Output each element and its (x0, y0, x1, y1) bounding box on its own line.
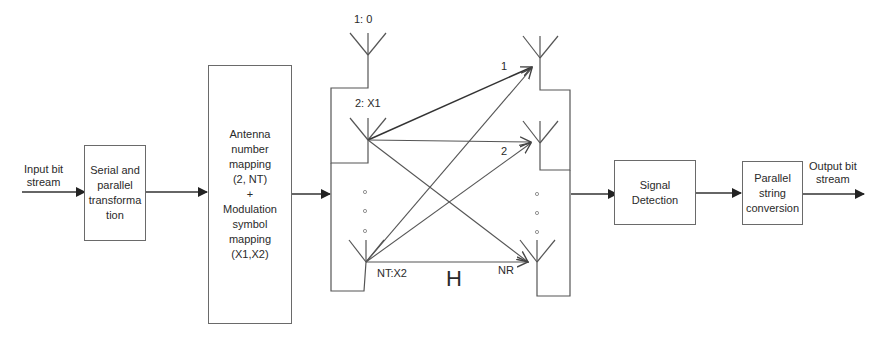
channel-matrix-label: H (446, 267, 462, 291)
block-text: Parallel (746, 171, 799, 186)
parallel-string-block: Parallel string conversion (742, 161, 803, 225)
path-2-to-2 (368, 140, 531, 142)
flow-arrows (22, 192, 864, 194)
tx-antenna-1-icon (350, 33, 386, 55)
serial-parallel-block: Serial and parallel transforma tion (84, 145, 146, 241)
rx-path-1-label: 1 (501, 60, 507, 73)
block-text: Antenna (223, 127, 277, 142)
path-2-to-1 (368, 67, 532, 140)
block-text: Signal (632, 178, 678, 193)
signal-detection-block: Signal Detection (614, 160, 696, 225)
block-text: Detection (632, 193, 678, 208)
input-label-line-2: stream (24, 176, 63, 189)
rx-antenna-2-icon (523, 121, 558, 143)
block-text: parallel (89, 178, 142, 193)
rx-antenna-nr-icon (520, 240, 555, 262)
tx-antenna-nt-label: NT:X2 (377, 267, 407, 280)
block-text: tion (89, 208, 142, 223)
channel-paths (366, 67, 532, 262)
tx-antenna-2-icon (350, 118, 386, 140)
block-text: mapping (223, 157, 277, 172)
block-text: Serial and (89, 163, 142, 178)
block-text: mapping (223, 232, 277, 247)
tx-antenna-nt-icon (349, 240, 384, 262)
output-label-line-2: stream (809, 173, 857, 186)
rx-antenna-nr-label: NR (498, 264, 514, 277)
path-nt-to-2 (366, 143, 531, 262)
input-label-line-1: Input bit (24, 163, 63, 176)
block-text: string (746, 186, 799, 201)
block-text: conversion (746, 201, 799, 216)
mapping-block: Antenna number mapping (2, NT) + Modulat… (208, 65, 292, 324)
tx-antenna-2-label: 2: X1 (355, 97, 381, 110)
ellipsis-dots (363, 190, 538, 233)
block-text: (2, NT) (223, 172, 277, 187)
path-nt-to-1 (366, 68, 532, 262)
block-text: number (223, 142, 277, 157)
output-label: Output bit stream (809, 160, 857, 186)
block-text: symbol (223, 217, 277, 232)
block-text: Modulation (223, 202, 277, 217)
tx-antenna-array (331, 33, 386, 291)
rx-path-2-label: 2 (501, 145, 507, 158)
input-label: Input bit stream (24, 163, 63, 189)
rx-antenna-1-icon (523, 36, 558, 58)
block-text: (X1,X2) (223, 247, 277, 262)
block-text: transforma (89, 193, 142, 208)
tx-antenna-1-label: 1: 0 (354, 13, 372, 26)
output-label-line-1: Output bit (809, 160, 857, 173)
block-text: + (223, 187, 277, 202)
rx-antenna-array (520, 36, 570, 296)
